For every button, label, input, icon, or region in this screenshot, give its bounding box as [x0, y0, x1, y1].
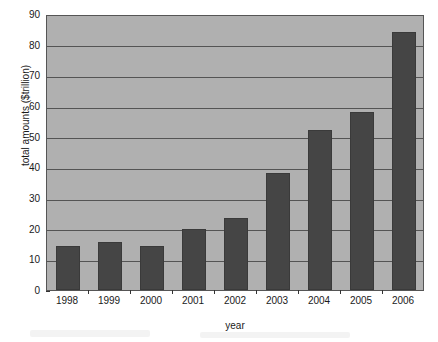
y-tick-label: 40 [10, 163, 40, 173]
x-tick-mark [172, 290, 173, 294]
x-tick-label: 1999 [88, 295, 130, 307]
bar [182, 229, 206, 290]
x-tick-label: 2003 [256, 295, 298, 307]
y-tick-label: 50 [10, 133, 40, 143]
gridline [47, 46, 423, 47]
bar [224, 218, 248, 290]
x-tick-label: 2001 [172, 295, 214, 307]
scan-artifact [30, 330, 150, 337]
gridline [47, 108, 423, 109]
y-tick-label: 80 [10, 41, 40, 51]
y-tick-label: 10 [10, 255, 40, 265]
x-tick-mark [256, 290, 257, 294]
bar [98, 242, 122, 290]
x-axis-title: year [46, 320, 424, 331]
x-tick-mark [88, 290, 89, 294]
x-tick-mark [130, 290, 131, 294]
y-tick-label: 70 [10, 71, 40, 81]
x-tick-label: 2004 [298, 295, 340, 307]
y-tick-label: 20 [10, 225, 40, 235]
bar [266, 173, 290, 290]
scan-artifact [200, 332, 350, 338]
x-tick-mark [298, 290, 299, 294]
x-tick-mark [340, 290, 341, 294]
gridline [47, 77, 423, 78]
bar [56, 246, 80, 290]
y-axis-ticks: 0102030405060708090 [6, 15, 40, 291]
bar [350, 112, 374, 290]
y-tick-mark [46, 291, 50, 292]
bar [140, 246, 164, 290]
x-tick-label: 2006 [382, 295, 424, 307]
x-tick-label: 1998 [46, 295, 88, 307]
x-tick-label: 2002 [214, 295, 256, 307]
bar [392, 32, 416, 290]
x-tick-label: 2005 [340, 295, 382, 307]
bar-chart-figure: total amounts ($trillion) 01020304050607… [0, 0, 438, 342]
y-tick-label: 60 [10, 102, 40, 112]
x-tick-label: 2000 [130, 295, 172, 307]
bar [308, 130, 332, 290]
x-axis-ticks: 199819992000200120022003200420052006 [46, 295, 424, 311]
y-tick-label: 90 [10, 10, 40, 20]
x-tick-mark [382, 290, 383, 294]
x-tick-mark [214, 290, 215, 294]
y-tick-label: 0 [10, 286, 40, 296]
y-tick-label: 30 [10, 194, 40, 204]
plot-area [46, 15, 424, 291]
